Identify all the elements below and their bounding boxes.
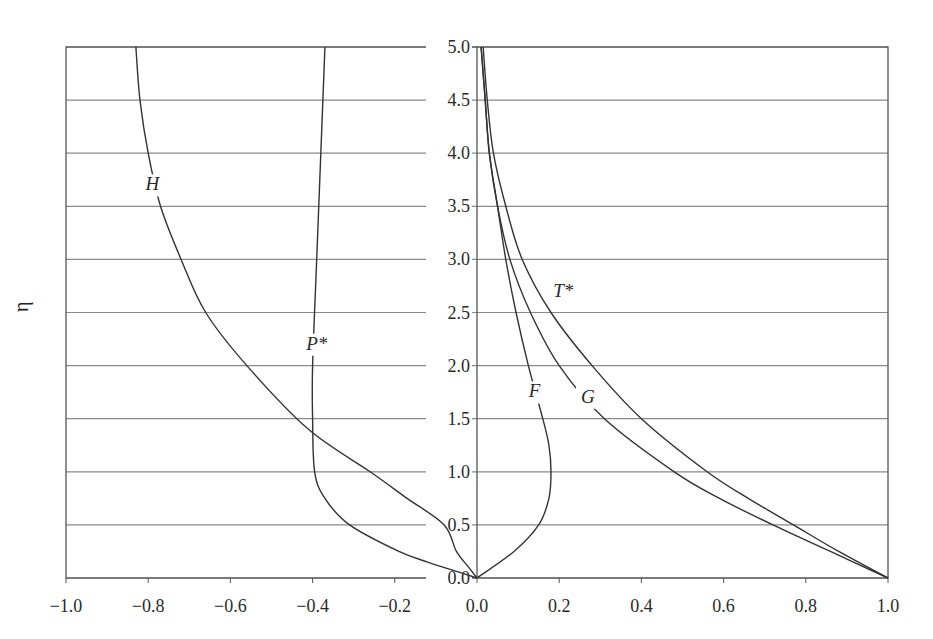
- x-tick-label: −0.8: [132, 596, 165, 616]
- y-axis-ticks: 0.00.51.01.52.02.53.03.54.04.55.0: [426, 37, 472, 588]
- y-tick-label: 0.0: [448, 568, 471, 588]
- x-tick-label: −0.2: [378, 596, 411, 616]
- curve-label: F: [528, 380, 541, 401]
- curve-labels: HP*FGT*: [140, 173, 602, 408]
- y-tick-label: 4.5: [448, 90, 471, 110]
- y-tick-label: 3.0: [448, 249, 471, 269]
- curve-label: T*: [553, 280, 574, 301]
- y-tick-label: 2.5: [448, 303, 471, 323]
- y-tick-label: 1.0: [448, 462, 471, 482]
- y-tick-label: 3.5: [448, 196, 471, 216]
- y-tick-label: 0.5: [448, 515, 471, 535]
- x-tick-label: 0.4: [630, 596, 653, 616]
- y-axis-label: η: [10, 302, 33, 312]
- chart: −1.0−0.8−0.6−0.4−0.20.00.20.40.60.81.0 0…: [0, 0, 933, 639]
- curve-label: P*: [305, 333, 328, 354]
- x-tick-label: −1.0: [50, 596, 83, 616]
- y-tick-label: 5.0: [448, 37, 471, 57]
- x-tick-label: 0.6: [712, 596, 735, 616]
- y-tick-label: 1.5: [448, 409, 471, 429]
- curve-label: G: [581, 386, 595, 407]
- x-tick-label: −0.4: [296, 596, 329, 616]
- curve-label: H: [144, 173, 160, 194]
- x-tick-label: −0.6: [214, 596, 247, 616]
- x-tick-label: 0.2: [548, 596, 571, 616]
- x-tick-label: 1.0: [877, 596, 900, 616]
- x-tick-label: 0.8: [795, 596, 818, 616]
- y-tick-label: 2.0: [448, 356, 471, 376]
- x-axis-ticks: −1.0−0.8−0.6−0.4−0.20.00.20.40.60.81.0: [50, 578, 900, 616]
- y-tick-label: 4.0: [448, 143, 471, 163]
- x-tick-label: 0.0: [466, 596, 489, 616]
